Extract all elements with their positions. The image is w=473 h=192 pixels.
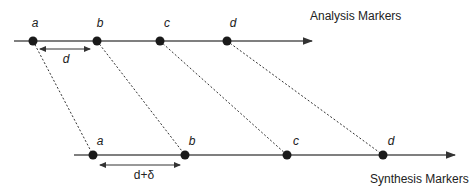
mapping-line-c bbox=[160, 41, 287, 155]
mapping-lines bbox=[33, 41, 383, 155]
marker-diagram: a b c d a b c d d d+δ Analysis Markers S… bbox=[0, 0, 473, 192]
analysis-label-c: c bbox=[164, 16, 170, 30]
analysis-marker-b bbox=[93, 37, 102, 46]
analysis-marker-a bbox=[29, 37, 38, 46]
analysis-marker-d bbox=[223, 37, 232, 46]
synthesis-marker-c bbox=[283, 151, 292, 160]
synthesis-marker-a bbox=[89, 151, 98, 160]
synthesis-label-a: a bbox=[97, 134, 104, 148]
analysis-label-b: b bbox=[97, 16, 104, 30]
synthesis-spacing-label: d+δ bbox=[134, 168, 155, 182]
analysis-label-d: d bbox=[230, 16, 237, 30]
synthesis-label-c: c bbox=[293, 134, 299, 148]
mapping-line-d bbox=[227, 41, 383, 155]
mapping-line-b bbox=[97, 41, 185, 155]
analysis-title: Analysis Markers bbox=[310, 9, 401, 23]
analysis-spacing-label: d bbox=[63, 52, 70, 66]
analysis-marker-c bbox=[156, 37, 165, 46]
synthesis-title: Synthesis Markers bbox=[370, 172, 469, 186]
synthesis-label-d: d bbox=[388, 134, 395, 148]
synthesis-marker-b bbox=[181, 151, 190, 160]
synthesis-label-b: b bbox=[189, 134, 196, 148]
synthesis-marker-d bbox=[379, 151, 388, 160]
analysis-label-a: a bbox=[32, 16, 39, 30]
